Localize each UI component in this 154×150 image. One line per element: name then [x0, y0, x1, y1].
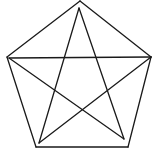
pentagon-edge: [80, 1, 151, 57]
star-edge: [9, 57, 151, 58]
pentagram-star: [9, 8, 151, 143]
star-edge: [79, 8, 124, 139]
pentagon-edge: [7, 1, 80, 57]
star-edge: [9, 58, 124, 139]
pentagon-edge: [7, 57, 36, 147]
pentagon-pentagram-diagram: [0, 0, 154, 150]
star-edge: [39, 57, 151, 143]
pentagon-edge: [128, 57, 151, 147]
